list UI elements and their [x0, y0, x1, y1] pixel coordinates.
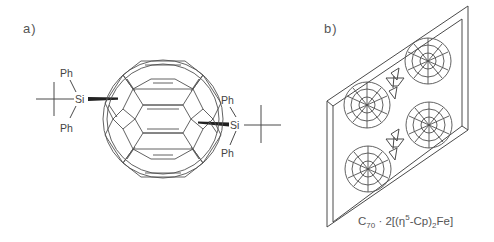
phenyl-label-top-left: Ph — [60, 67, 73, 79]
caption-cp: -Cp) — [410, 215, 432, 227]
silicon-label-right: Si — [230, 119, 239, 131]
ferrocene-lower — [386, 129, 404, 160]
silicon-label-left: Si — [75, 93, 84, 105]
fullerene-bottom-left — [345, 146, 391, 192]
caption-middle: · 2[(η — [375, 215, 405, 227]
figure-caption: C70 · 2[(η5-Cp)2Fe] — [358, 213, 453, 230]
ferrocene-upper — [386, 68, 404, 99]
caption-subscript-70: 70 — [366, 221, 375, 230]
panel-a: a) Ph Ph Si Ph Ph Si — [0, 0, 300, 242]
phenyl-label-top-right: Ph — [221, 94, 234, 106]
wedge-bond-right — [198, 122, 229, 127]
fullerene-middle-left — [344, 82, 390, 128]
phenyl-label-bottom-right: Ph — [221, 147, 234, 159]
caption-fe: Fe] — [437, 215, 454, 227]
right-silyl-group: Ph Ph Si — [198, 94, 281, 159]
fullerene-top-right — [405, 38, 451, 84]
c70-cage — [103, 60, 223, 178]
crystal-packing-diagram — [300, 0, 494, 242]
wedge-bond-left — [88, 97, 118, 101]
silylated-fullerene-structure: Ph Ph Si Ph Ph Si — [0, 0, 300, 242]
phenyl-label-bottom-left: Ph — [60, 122, 73, 134]
panel-b: b) — [300, 0, 494, 242]
fullerene-middle-right — [406, 102, 452, 148]
